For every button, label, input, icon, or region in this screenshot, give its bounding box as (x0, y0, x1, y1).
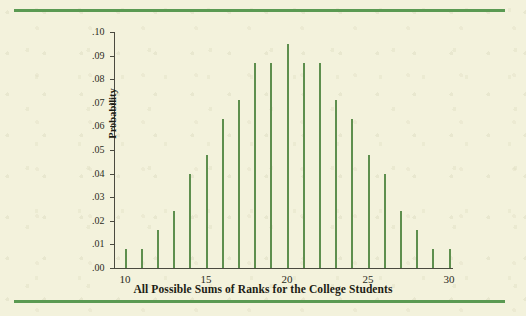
x-axis-label: All Possible Sums of Ranks for the Colle… (0, 283, 526, 295)
bar (287, 44, 289, 268)
bar (270, 63, 272, 268)
y-axis-tick-label: .06 (81, 121, 105, 131)
y-axis-tick-label: .03 (81, 192, 105, 202)
y-axis-tick-label: .10 (81, 27, 105, 37)
x-axis-line (114, 268, 454, 269)
y-axis-tick (110, 244, 115, 245)
bar (303, 63, 305, 268)
bar (416, 230, 418, 268)
plot-area: .00.01.02.03.04.05.06.07.08.09.101015202… (0, 0, 526, 316)
bar (319, 63, 321, 268)
bar (125, 249, 127, 268)
y-axis-tick-label: .01 (81, 239, 105, 249)
y-axis-label: Probability (107, 64, 118, 164)
y-axis-tick-label: .05 (81, 145, 105, 155)
bar (222, 119, 224, 268)
y-axis-tick-label: .00 (81, 263, 105, 273)
y-axis-tick (110, 268, 115, 269)
bar (238, 100, 240, 268)
bar (157, 230, 159, 268)
y-axis-tick-label: .04 (81, 169, 105, 179)
bar (141, 249, 143, 268)
y-axis-tick (110, 32, 115, 33)
y-axis-tick (110, 221, 115, 222)
bar (449, 249, 451, 268)
y-axis-tick (110, 197, 115, 198)
bar (335, 100, 337, 268)
bar (189, 174, 191, 268)
y-axis-tick-label: .07 (81, 98, 105, 108)
figure-panel: .00.01.02.03.04.05.06.07.08.09.101015202… (0, 0, 526, 316)
bar (351, 119, 353, 268)
bar (432, 249, 434, 268)
bar (384, 174, 386, 268)
bar (400, 211, 402, 268)
bar (368, 155, 370, 268)
bar (173, 211, 175, 268)
y-axis-tick-label: .02 (81, 216, 105, 226)
bar (254, 63, 256, 268)
y-axis-tick (110, 174, 115, 175)
y-axis-tick-label: .08 (81, 74, 105, 84)
y-axis-tick (110, 56, 115, 57)
bar (206, 155, 208, 268)
y-axis-tick-label: .09 (81, 51, 105, 61)
